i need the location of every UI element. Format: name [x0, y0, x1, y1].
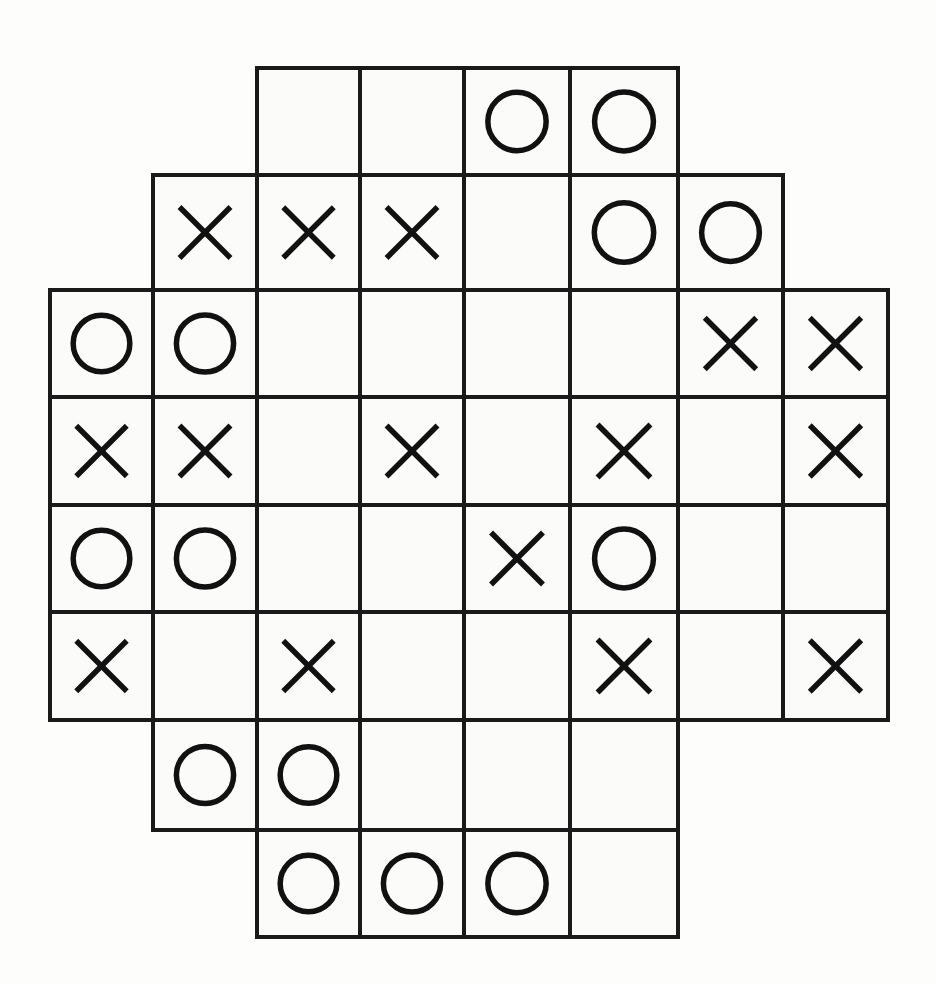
board-cell[interactable]: [678, 612, 783, 720]
board-cell[interactable]: [678, 175, 783, 290]
board-cell[interactable]: [257, 397, 360, 505]
board-cell[interactable]: [153, 397, 257, 505]
board-cell[interactable]: [783, 397, 888, 505]
board-cell[interactable]: [360, 612, 464, 720]
cell-background[interactable]: [464, 612, 570, 720]
board-cell[interactable]: [464, 68, 570, 175]
board-cell[interactable]: [360, 720, 464, 830]
board-row: [50, 505, 888, 612]
cell-background[interactable]: [153, 290, 257, 397]
board-cell[interactable]: [570, 612, 678, 720]
board-cell[interactable]: [570, 720, 678, 830]
board-root: Octagonal Tic-Tac-Toe Grid: [0, 0, 936, 984]
board-cell[interactable]: [464, 290, 570, 397]
board-row: [50, 397, 888, 505]
cell-background[interactable]: [678, 505, 783, 612]
cell-background[interactable]: [257, 505, 360, 612]
cell-background[interactable]: [464, 175, 570, 290]
cell-background[interactable]: [153, 720, 257, 830]
board-cell[interactable]: [570, 175, 678, 290]
cell-background[interactable]: [360, 290, 464, 397]
board-cell[interactable]: [360, 290, 464, 397]
cell-background[interactable]: [360, 505, 464, 612]
cell-background[interactable]: [257, 720, 360, 830]
cell-background[interactable]: [464, 290, 570, 397]
board-cell[interactable]: [50, 290, 153, 397]
cell-background[interactable]: [153, 505, 257, 612]
cell-background[interactable]: [570, 290, 678, 397]
board-cell[interactable]: [783, 505, 888, 612]
board-row: [50, 290, 888, 397]
cell-background[interactable]: [678, 175, 783, 290]
board-cell[interactable]: [678, 397, 783, 505]
cell-background[interactable]: [570, 175, 678, 290]
board-row: [50, 612, 888, 720]
board-cell[interactable]: [360, 397, 464, 505]
board-cell[interactable]: [257, 505, 360, 612]
board-cell[interactable]: [570, 397, 678, 505]
cell-background[interactable]: [257, 397, 360, 505]
board-cell[interactable]: [570, 505, 678, 612]
cell-background[interactable]: [464, 830, 570, 937]
board-cell[interactable]: [50, 397, 153, 505]
board-cell[interactable]: [50, 612, 153, 720]
board-cell[interactable]: [783, 612, 888, 720]
board-cell[interactable]: [360, 68, 464, 175]
board-row: [257, 68, 678, 175]
board-cell[interactable]: [360, 175, 464, 290]
cell-background[interactable]: [257, 830, 360, 937]
cell-background[interactable]: [360, 830, 464, 937]
cell-background[interactable]: [678, 397, 783, 505]
cell-background[interactable]: [464, 720, 570, 830]
board-row: [257, 830, 678, 937]
cell-background[interactable]: [50, 290, 153, 397]
board-cell[interactable]: [464, 505, 570, 612]
board-cell[interactable]: [464, 175, 570, 290]
cell-background[interactable]: [678, 612, 783, 720]
board-cell[interactable]: [570, 830, 678, 937]
board-cell[interactable]: [257, 612, 360, 720]
board-cell[interactable]: [360, 830, 464, 937]
board-cell[interactable]: [153, 175, 257, 290]
board-cell[interactable]: [153, 612, 257, 720]
cell-background[interactable]: [464, 397, 570, 505]
board-cell[interactable]: [678, 290, 783, 397]
board-cell[interactable]: [257, 175, 360, 290]
board-cell[interactable]: [464, 830, 570, 937]
board-cell[interactable]: [257, 830, 360, 937]
board-cell[interactable]: [50, 505, 153, 612]
cell-background[interactable]: [257, 290, 360, 397]
board-cell[interactable]: [257, 68, 360, 175]
board-cell[interactable]: [678, 505, 783, 612]
board-cell[interactable]: [464, 612, 570, 720]
cell-background[interactable]: [257, 68, 360, 175]
board-cell[interactable]: [257, 290, 360, 397]
cell-background[interactable]: [570, 68, 678, 175]
cell-background[interactable]: [50, 505, 153, 612]
board-cell[interactable]: [153, 505, 257, 612]
board-cell[interactable]: [783, 290, 888, 397]
cell-background[interactable]: [360, 612, 464, 720]
board-cell[interactable]: [153, 720, 257, 830]
board-cell[interactable]: [153, 290, 257, 397]
board-cell[interactable]: [570, 68, 678, 175]
cell-background[interactable]: [570, 505, 678, 612]
board-cell[interactable]: [360, 505, 464, 612]
board-cell[interactable]: [464, 720, 570, 830]
cell-background[interactable]: [360, 720, 464, 830]
cell-background[interactable]: [570, 830, 678, 937]
board-row: [153, 175, 783, 290]
board-row: [153, 720, 678, 830]
board-cell[interactable]: [464, 397, 570, 505]
cell-background[interactable]: [570, 720, 678, 830]
board-cell[interactable]: [570, 290, 678, 397]
cell-background[interactable]: [783, 505, 888, 612]
board-cell[interactable]: [257, 720, 360, 830]
cell-background[interactable]: [464, 68, 570, 175]
tic-tac-toe-board[interactable]: [0, 0, 936, 984]
cell-background[interactable]: [360, 68, 464, 175]
cell-background[interactable]: [153, 612, 257, 720]
